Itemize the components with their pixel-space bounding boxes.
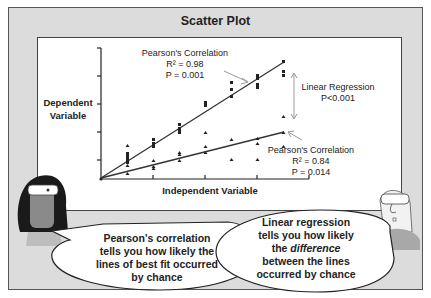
lower-fit-label: Pearson's Correlation R² = 0.84 P = 0.01… [266, 145, 356, 178]
left-bubble-text: Pearson's correlation tells you how like… [72, 232, 242, 284]
upper-fit-label: Pearson's Correlation R² = 0.98 P = 0.00… [140, 48, 230, 81]
x-axis-label: Independent Variable [150, 184, 270, 197]
y-axis-label: Dependent Variable [38, 96, 98, 122]
right-bubble-text: Linear regression tells you how likely t… [226, 216, 386, 281]
annotation-arrows [224, 71, 302, 140]
regression-label: Linear Regression P<0.001 [298, 82, 378, 104]
emphasis-line: the difference [226, 242, 386, 255]
